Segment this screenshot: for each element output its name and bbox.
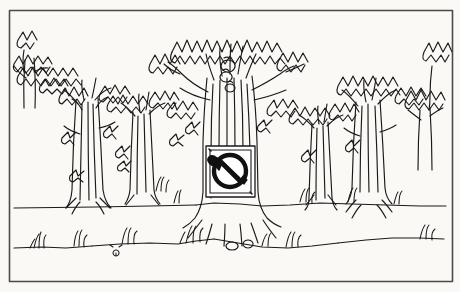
forest-line-drawing (0, 0, 460, 292)
illustration-stage: Forest with no-axe prohibition sign (0, 0, 460, 292)
no-axe-prohibition-sign[interactable] (206, 146, 255, 197)
